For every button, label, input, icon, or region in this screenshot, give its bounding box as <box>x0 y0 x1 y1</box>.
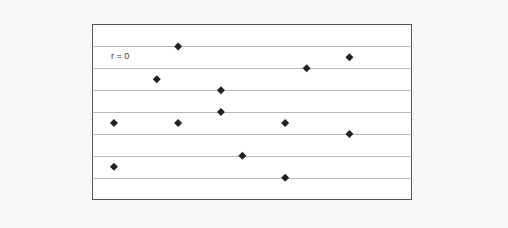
correlation-annotation: r = 0 <box>111 51 129 61</box>
scatter-chart: r = 0 <box>0 0 508 228</box>
